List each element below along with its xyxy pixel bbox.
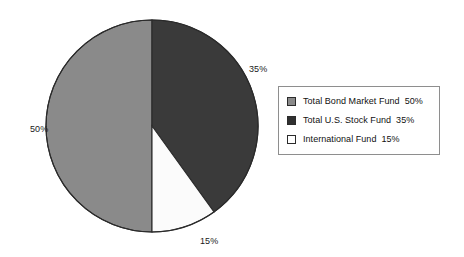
legend-label-total-us-stock-fund: Total U.S. Stock Fund bbox=[303, 115, 391, 125]
legend-value-international-fund: 15% bbox=[381, 134, 399, 144]
pie-value-label-35: 35% bbox=[249, 64, 267, 74]
pie-slice-total-bond-market-fund bbox=[46, 20, 152, 232]
legend-item-total-us-stock-fund: Total U.S. Stock Fund 35% bbox=[287, 114, 423, 126]
pie-value-label-50: 50% bbox=[30, 124, 48, 134]
legend-item-total-bond-market-fund: Total Bond Market Fund 50% bbox=[287, 95, 423, 107]
legend-label-international-fund: International Fund bbox=[303, 134, 376, 144]
legend-item-international-fund: International Fund 15% bbox=[287, 133, 423, 145]
legend-swatch-icon-international-fund bbox=[287, 135, 296, 144]
legend-swatch-icon-total-us-stock-fund bbox=[287, 116, 296, 125]
legend-item-list: Total Bond Market Fund 50% Total U.S. St… bbox=[287, 95, 423, 145]
pie-chart-screenshot: 35% 50% 15% Total Bond Market Fund 50% T… bbox=[0, 0, 464, 257]
legend-label-total-bond-market-fund: Total Bond Market Fund bbox=[303, 96, 400, 106]
legend-value-total-us-stock-fund: 35% bbox=[396, 115, 414, 125]
legend-swatch-icon-total-bond-market-fund bbox=[287, 97, 296, 106]
pie-value-label-15: 15% bbox=[200, 236, 218, 246]
chart-legend: Total Bond Market Fund 50% Total U.S. St… bbox=[278, 86, 440, 155]
legend-value-total-bond-market-fund: 50% bbox=[405, 96, 423, 106]
